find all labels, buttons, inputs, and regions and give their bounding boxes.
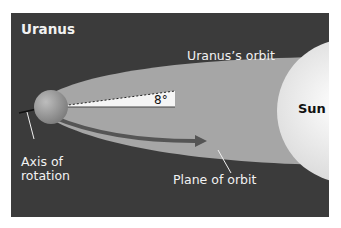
orbit-diagram	[11, 13, 329, 217]
orbit-label: Uranus’s orbit	[187, 49, 275, 63]
axis-label-line1: Axis of	[21, 155, 63, 169]
tilt-angle-label: 8°	[154, 93, 168, 107]
sun-label: Sun	[298, 101, 326, 116]
axis-label-line2: rotation	[21, 169, 70, 183]
uranus-planet	[34, 90, 68, 124]
diagram-title: Uranus	[21, 22, 75, 36]
plane-of-orbit-label: Plane of orbit	[173, 173, 256, 187]
diagram-panel: Uranus Uranus’s orbit Sun 8° Axis of rot…	[11, 13, 329, 217]
